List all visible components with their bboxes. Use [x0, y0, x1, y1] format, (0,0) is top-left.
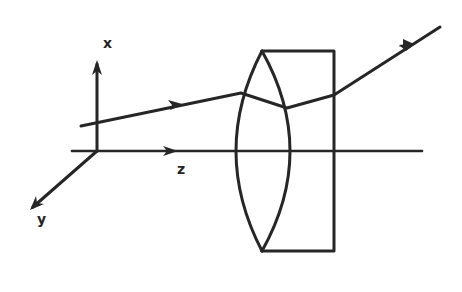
incident-ray [81, 27, 440, 126]
y-axis-label: y [37, 211, 46, 227]
x-axis-label: x [103, 35, 112, 51]
y-axis [33, 151, 97, 207]
optics-diagram: x z y [0, 0, 462, 292]
ray-path [81, 27, 440, 126]
coordinate-axes [30, 60, 422, 210]
z-axis-label: z [177, 161, 185, 177]
exit-ray-arrowhead-fill-icon [399, 43, 416, 51]
